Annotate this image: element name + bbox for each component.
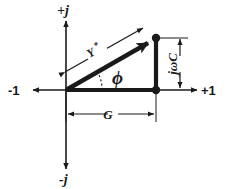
phasor-diagram: Y * G jωC ϕ -1 +1 [0,0,227,189]
conductance-dimension-group: G [66,90,156,122]
susceptance-dimension-group: jωC [156,38,188,88]
susceptance-label: jωC [165,53,180,77]
conductance-label: G [103,107,113,122]
phasor-diagram-canvas: Y * G jωC ϕ -1 +1 [0,0,227,189]
axis-labels-group: -1 +1 +j -j [8,3,216,187]
axis-label-imag-positive: +j [57,3,69,18]
axis-label-real-negative: -1 [8,83,20,98]
axis-label-real-positive: +1 [201,83,216,98]
axis-label-imag-negative: -j [59,172,68,187]
vector-dimension-group: Y * [65,28,143,72]
angle-label: ϕ [112,67,123,88]
